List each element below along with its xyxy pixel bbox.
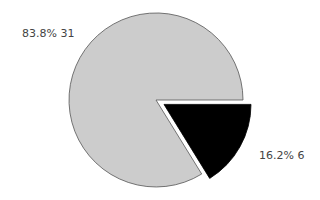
slice-label-large: 83.8% 31 bbox=[22, 27, 74, 40]
slice-label-small: 16.2% 6 bbox=[259, 149, 304, 162]
